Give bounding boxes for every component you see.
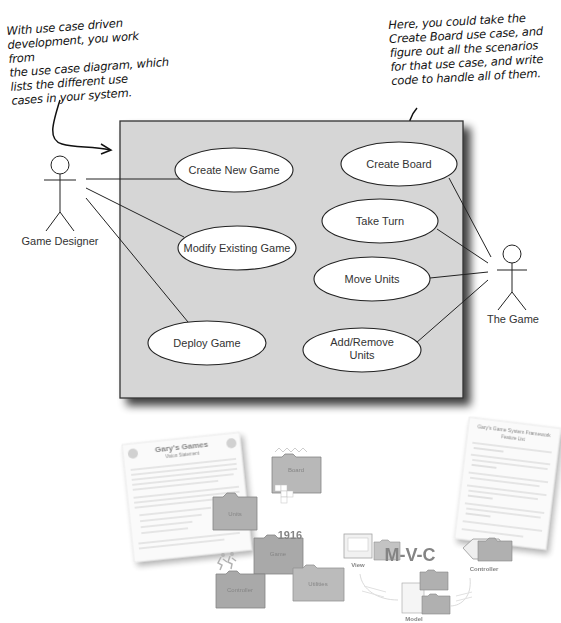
feature-list-document: Gary's Game System Framework Feature Lis… bbox=[455, 417, 561, 549]
folder-controller-icon: Controller bbox=[216, 571, 265, 608]
svg-text:Units: Units bbox=[349, 349, 375, 361]
folder-board-icon: Board bbox=[272, 448, 321, 503]
use-case-move-units: Move Units bbox=[314, 257, 430, 301]
mvc-label: M-V-C bbox=[385, 545, 436, 565]
running-figures-icon bbox=[218, 552, 236, 570]
use-case-create-board: Create Board bbox=[341, 142, 457, 186]
svg-text:Utilities: Utilities bbox=[308, 581, 327, 587]
use-case-add-remove-units: Add/Remove Units bbox=[303, 328, 421, 372]
svg-text:Create New Game: Create New Game bbox=[188, 164, 279, 176]
svg-text:Deploy Game: Deploy Game bbox=[173, 337, 240, 349]
actor-the-game bbox=[497, 245, 527, 310]
use-case-modify-existing-game: Modify Existing Game bbox=[178, 226, 296, 270]
actor-label-the-game: The Game bbox=[487, 313, 539, 325]
svg-text:Take Turn: Take Turn bbox=[356, 215, 404, 227]
use-case-take-turn: Take Turn bbox=[322, 199, 438, 243]
svg-text:Game: Game bbox=[270, 551, 287, 557]
year-label: 1916 bbox=[278, 529, 302, 541]
svg-text:Controller: Controller bbox=[470, 566, 499, 572]
arrow-left-annotation bbox=[53, 100, 110, 150]
use-case-diagram: Game Designer The Game Create New Game M… bbox=[0, 0, 561, 623]
svg-text:Units: Units bbox=[228, 511, 242, 517]
actor-game-designer bbox=[44, 156, 76, 231]
model-folders-icon: Model bbox=[402, 570, 450, 622]
actor-head-icon bbox=[51, 156, 69, 174]
svg-text:Modify Existing Game: Modify Existing Game bbox=[184, 242, 291, 254]
folder-utilities-icon: Utilities bbox=[293, 565, 344, 601]
svg-text:Board: Board bbox=[288, 467, 304, 473]
illustration-collage: Gary's Games Vision Statement Gary's Gam… bbox=[122, 417, 561, 622]
svg-text:Add/Remove: Add/Remove bbox=[330, 336, 394, 348]
svg-text:Move Units: Move Units bbox=[344, 273, 400, 285]
folder-units-icon: Units bbox=[213, 493, 257, 530]
use-case-create-new-game: Create New Game bbox=[175, 148, 293, 192]
svg-text:Model: Model bbox=[405, 616, 423, 622]
actor-head-icon bbox=[503, 245, 521, 263]
svg-text:Create Board: Create Board bbox=[366, 158, 431, 170]
controller-hexagon-icon: Controller bbox=[463, 538, 512, 572]
actor-label-game-designer: Game Designer bbox=[21, 235, 98, 247]
svg-text:View: View bbox=[351, 562, 365, 568]
use-case-deploy-game: Deploy Game bbox=[148, 321, 266, 365]
svg-text:Controller: Controller bbox=[227, 587, 253, 593]
